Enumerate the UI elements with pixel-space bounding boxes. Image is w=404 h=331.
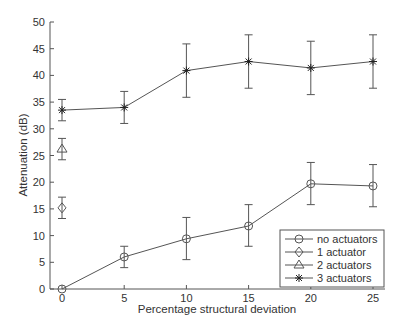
- legend-label: 1 actuator: [317, 246, 366, 258]
- y-tick-label: 25: [33, 150, 45, 162]
- star-marker-icon: [182, 67, 190, 75]
- x-tick-label: 5: [121, 292, 127, 304]
- error-bar: [120, 246, 128, 267]
- error-bar: [58, 197, 66, 218]
- star-marker-icon: [369, 58, 377, 66]
- y-axis-label: Attenuation (dB): [17, 113, 29, 196]
- legend-item: no actuators: [285, 233, 378, 245]
- star-marker-icon: [58, 106, 66, 114]
- star-marker-icon: [245, 58, 253, 66]
- legend-label: no actuators: [317, 233, 378, 245]
- y-tick-label: 45: [33, 43, 45, 55]
- y-tick-label: 10: [33, 230, 45, 242]
- y-tick-label: 50: [33, 16, 45, 28]
- y-tick-label: 40: [33, 69, 45, 81]
- x-tick-label: 20: [305, 292, 317, 304]
- chart: 051015202530354045500510152025 no actuat…: [0, 0, 404, 331]
- y-tick-label: 35: [33, 96, 45, 108]
- error-bar: [245, 205, 253, 247]
- y-tick-label: 5: [39, 256, 45, 268]
- x-tick-label: 0: [59, 292, 65, 304]
- series-2-actuators: [57, 138, 67, 159]
- x-tick-label: 25: [367, 292, 379, 304]
- star-marker-icon: [307, 64, 315, 72]
- y-tick-label: 20: [33, 176, 45, 188]
- star-marker-icon: [295, 274, 303, 282]
- y-tick-label: 0: [39, 283, 45, 295]
- series-1-actuator: [58, 197, 66, 218]
- x-axis-label: Percentage structural deviation: [138, 303, 297, 315]
- star-marker-icon: [120, 103, 128, 111]
- series-line: [62, 62, 373, 111]
- series-3-actuators: [58, 35, 377, 124]
- y-tick-label: 15: [33, 203, 45, 215]
- y-tick-label: 30: [33, 123, 45, 135]
- legend: no actuators1 actuator2 actuators3 actua…: [280, 230, 384, 287]
- legend-label: 2 actuators: [317, 259, 372, 271]
- legend-label: 3 actuators: [317, 272, 372, 284]
